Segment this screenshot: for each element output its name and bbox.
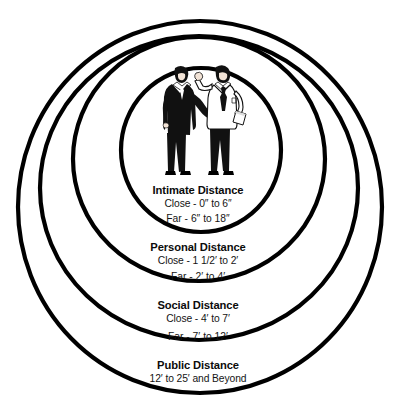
zone-title-personal: Personal Distance: [0, 241, 396, 254]
proxemics-diagram: Intimate Distance Close - 0″ to 6″ Far -…: [0, 0, 396, 402]
zone-close-public: 12′ to 25′ and Beyond: [0, 373, 396, 385]
zone-close-social: Close - 4′ to 7′: [0, 313, 396, 325]
zone-close-intimate: Close - 0″ to 6″: [0, 198, 396, 210]
right-figure-white-shirt: [195, 65, 246, 175]
zone-far-personal: Far - 2′ to 4′: [0, 271, 396, 282]
zone-far-intimate: Far - 6″ to 18″: [0, 213, 396, 224]
zone-close-personal: Close - 1 1/2′ to 2′: [0, 255, 396, 267]
zone-label-intimate: Intimate Distance Close - 0″ to 6″: [0, 184, 396, 209]
zone-label-social: Social Distance Close - 4′ to 7′: [0, 299, 396, 324]
zone-far-social: Far - 7′ to 12′: [0, 331, 396, 342]
zone-label-public: Public Distance 12′ to 25′ and Beyond: [0, 359, 396, 384]
two-businessmen-illustration: [148, 63, 252, 181]
zone-title-public: Public Distance: [0, 359, 396, 372]
zone-title-social: Social Distance: [0, 299, 396, 312]
zone-title-intimate: Intimate Distance: [0, 184, 396, 197]
zone-label-personal: Personal Distance Close - 1 1/2′ to 2′: [0, 241, 396, 266]
